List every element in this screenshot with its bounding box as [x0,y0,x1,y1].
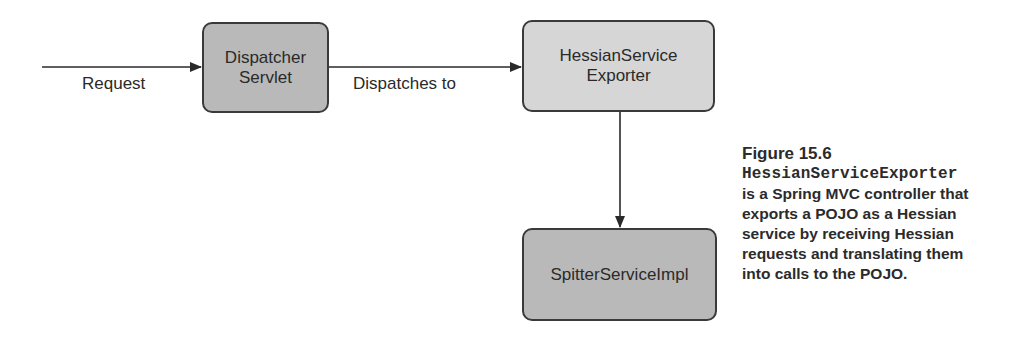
caption-code-term: HessianServiceExporter [742,164,1035,184]
figure-caption: Figure 15.6 HessianServiceExporter is a … [742,144,1035,284]
dispatcher-servlet-node: Dispatcher Servlet [202,22,329,113]
caption-line: into calls to the POJO. [742,264,1035,284]
node-label-line: HessianService [559,46,677,66]
dispatches-to-label: Dispatches to [353,74,456,94]
figure-number: Figure 15.6 [742,144,1035,164]
node-label-line: Servlet [239,68,292,88]
caption-line: is a Spring MVC controller that [742,184,1035,204]
caption-line: service by receiving Hessian [742,224,1035,244]
caption-line: exports a POJO as a Hessian [742,204,1035,224]
node-label-line: SpitterServiceImpl [551,265,689,285]
request-label: Request [82,74,145,94]
hessian-service-exporter-node: HessianService Exporter [522,20,715,112]
node-label-line: Dispatcher [225,48,306,68]
node-label-line: Exporter [586,66,650,86]
spitter-service-impl-node: SpitterServiceImpl [522,228,717,321]
caption-line: requests and translating them [742,244,1035,264]
